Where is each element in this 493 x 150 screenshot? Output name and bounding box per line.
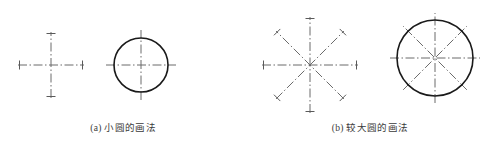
figure-root: (a) 小圆的画法 (b) 较大圆的画法 bbox=[0, 0, 493, 150]
technical-drawing-canvas bbox=[0, 0, 493, 150]
figure-background bbox=[0, 0, 493, 150]
